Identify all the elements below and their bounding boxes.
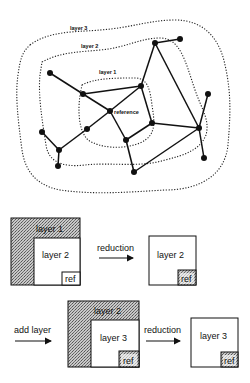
ref-label: ref bbox=[224, 356, 235, 366]
node bbox=[177, 36, 183, 42]
node bbox=[84, 126, 90, 132]
step1-reduction-arrow: reduction bbox=[97, 243, 134, 258]
node bbox=[47, 70, 53, 76]
inner-layer-label: layer 3 bbox=[200, 331, 227, 341]
inner-layer-label: layer 3 bbox=[100, 333, 127, 343]
step2-box-after: layer 3 ref bbox=[191, 318, 238, 367]
reference-node bbox=[107, 108, 113, 114]
step2-add-layer-arrow: add layer bbox=[14, 325, 51, 341]
reduction-label: reduction bbox=[97, 243, 134, 253]
layer-contours bbox=[17, 20, 230, 193]
network-nodes bbox=[39, 36, 211, 175]
node bbox=[56, 147, 62, 153]
layer-diagram: layer 3 layer 2 layer 1 reference layer … bbox=[0, 0, 250, 383]
node bbox=[39, 129, 45, 135]
inner-layer-label: layer 2 bbox=[157, 250, 184, 260]
node bbox=[205, 91, 211, 97]
outer-layer-label: layer 1 bbox=[36, 224, 63, 234]
node bbox=[80, 91, 86, 97]
reference-label: reference bbox=[114, 109, 139, 115]
layer1-label: layer 1 bbox=[99, 69, 116, 75]
layer2-label: layer 2 bbox=[81, 43, 98, 49]
node bbox=[152, 40, 158, 46]
outer-layer-label: layer 2 bbox=[94, 306, 121, 316]
node bbox=[55, 163, 61, 169]
node bbox=[201, 155, 207, 161]
node bbox=[138, 83, 144, 89]
inner-layer-label: layer 2 bbox=[42, 250, 69, 260]
layer3-label: layer 3 bbox=[70, 25, 87, 31]
step2-box-before: layer 2 layer 3 ref bbox=[68, 301, 139, 367]
node bbox=[196, 125, 202, 131]
node bbox=[149, 120, 155, 126]
network-edges bbox=[42, 39, 208, 172]
node bbox=[131, 169, 137, 175]
layer3-contour bbox=[17, 20, 230, 193]
reduction-label: reduction bbox=[144, 325, 181, 335]
ref-label: ref bbox=[123, 356, 134, 366]
add-layer-label: add layer bbox=[14, 325, 51, 335]
ref-label: ref bbox=[65, 274, 76, 284]
node bbox=[123, 137, 129, 143]
ref-label: ref bbox=[181, 274, 192, 284]
step1-box-after: layer 2 ref bbox=[149, 236, 196, 285]
step2-reduction-arrow: reduction bbox=[144, 325, 181, 341]
step1-box-before: layer 1 layer 2 ref bbox=[11, 218, 80, 285]
